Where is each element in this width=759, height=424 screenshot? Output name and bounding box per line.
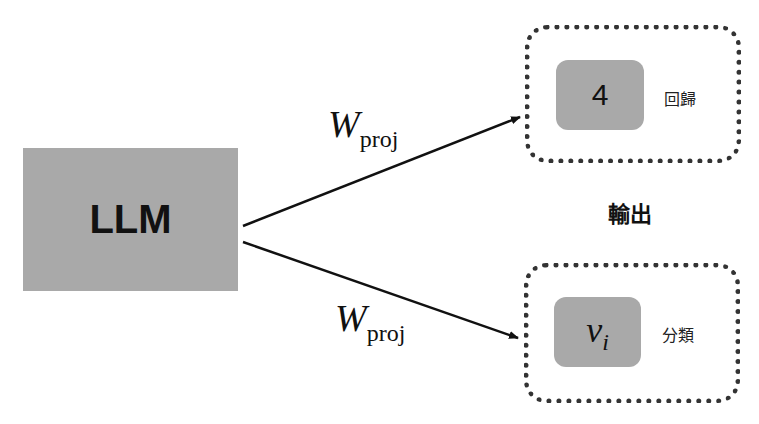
classification-value: vi	[586, 309, 609, 356]
wproj-label-bottom: Wproj	[335, 296, 405, 347]
llm-box: LLM	[23, 148, 238, 291]
regression-value-box: 4	[556, 60, 644, 130]
vector-subscript: i	[602, 329, 609, 355]
wproj-subscript: proj	[360, 126, 399, 152]
wproj-subscript: proj	[367, 320, 406, 346]
wproj-label-top: Wproj	[328, 102, 398, 153]
output-group-label: 輸出	[608, 196, 652, 228]
classification-value-box: vi	[554, 297, 641, 367]
wproj-main: W	[335, 297, 367, 339]
regression-value: 4	[592, 78, 609, 112]
regression-label: 回歸	[664, 86, 696, 110]
vector-symbol: v	[586, 310, 602, 350]
classification-label: 分類	[662, 322, 694, 346]
wproj-main: W	[328, 103, 360, 145]
llm-label: LLM	[89, 197, 171, 242]
